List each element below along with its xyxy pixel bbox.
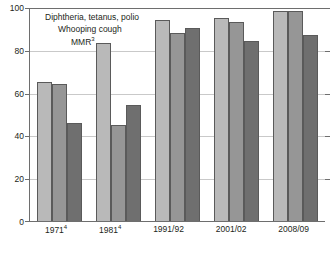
y-tick-label-40: 40	[15, 132, 24, 140]
y-tick-label-80: 80	[15, 47, 24, 55]
legend-item-diphtheria-tetanus-polio: Diphtheria, tetanus, polio	[45, 11, 139, 22]
y-tick-mark-right-20	[325, 179, 330, 180]
bar-group-1991-92	[155, 8, 200, 221]
bar-1991-92-series-2	[185, 28, 200, 221]
bar-group-2001-02	[214, 8, 259, 221]
chart-legend: Diphtheria, tetanus, polio Whooping coug…	[45, 11, 139, 46]
bar-2008-09-series-2	[303, 35, 318, 221]
y-tick-label-20: 20	[15, 175, 24, 183]
bar-1991-92-series-1	[170, 33, 185, 221]
x-axis-footnote-0: 4	[64, 224, 67, 230]
y-tick-mark-right-60	[325, 94, 330, 95]
x-axis-label-2008-09: 2008/09	[278, 224, 309, 235]
x-axis-label-1981: 19814	[99, 224, 121, 235]
bar-2001-02-series-0	[214, 18, 229, 221]
x-axis-label-1991-92: 1991/92	[153, 224, 184, 235]
x-axis-footnote-1: 4	[118, 224, 121, 230]
bar-2008-09-series-1	[288, 11, 303, 221]
legend-item-mmr: MMR3	[45, 35, 139, 46]
bar-2001-02-series-2	[244, 41, 259, 221]
y-tick-label-60: 60	[15, 90, 24, 98]
y-axis-labels: 100 80 60 40 20 0	[0, 8, 24, 222]
y-tick-mark-0	[25, 221, 30, 222]
legend-label-diphtheria-tetanus-polio: Diphtheria, tetanus, polio	[45, 12, 139, 22]
bar-2008-09-series-0	[273, 11, 288, 221]
legend-footnote-mmr: 3	[91, 36, 94, 42]
bar-1981-series-0	[96, 43, 111, 221]
legend-item-whooping-cough: Whooping cough	[45, 23, 139, 34]
bar-1991-92-series-0	[155, 20, 170, 221]
bar-1971-series-0	[37, 82, 52, 221]
bar-1981-series-2	[126, 105, 141, 221]
y-tick-mark-right-100	[325, 8, 330, 9]
y-tick-mark-right-40	[325, 136, 330, 137]
x-axis-label-2001-02: 2001/02	[216, 224, 247, 235]
legend-label-whooping-cough: Whooping cough	[58, 24, 122, 34]
y-tick-label-100: 100	[10, 4, 24, 12]
y-tick-mark-right-80	[325, 51, 330, 52]
immunisation-bar-chart: 100 80 60 40 20 0 19714198141991/922001/…	[0, 0, 331, 254]
bar-1971-series-1	[52, 84, 67, 221]
bar-2001-02-series-1	[229, 22, 244, 221]
bar-group-2008-09	[273, 8, 318, 221]
x-axis-labels: 19714198141991/922001/022008/09	[29, 224, 325, 235]
bar-1971-series-2	[67, 123, 82, 221]
y-tick-label-0: 0	[19, 218, 24, 226]
legend-label-mmr: MMR3	[71, 34, 95, 47]
bar-1981-series-1	[111, 125, 126, 221]
x-axis-label-1971: 19714	[45, 224, 67, 235]
